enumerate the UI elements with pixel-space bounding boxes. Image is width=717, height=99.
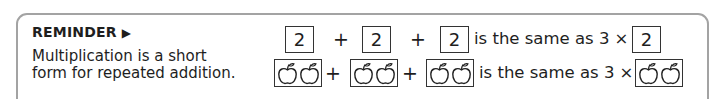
- number-box-1: 2: [285, 26, 314, 53]
- result-apple-box: [635, 59, 683, 87]
- number-box-3: 2: [440, 26, 469, 53]
- plus-sign-4: +: [402, 63, 418, 83]
- apple-icon: [353, 62, 374, 85]
- description-line-2: form for repeated addition.: [32, 65, 235, 82]
- apple-box-3: [426, 59, 474, 87]
- apple-box-2: [350, 59, 398, 87]
- apple-icon: [660, 62, 681, 85]
- result-number-box: 2: [632, 26, 661, 53]
- plus-sign-3: +: [325, 63, 341, 83]
- reminder-description: Multiplication is a short form for repea…: [32, 48, 235, 82]
- plus-sign-2: +: [410, 29, 426, 49]
- description-line-1: Multiplication is a short: [32, 48, 235, 65]
- apple-box-1: [274, 59, 322, 87]
- apple-icon: [277, 62, 298, 85]
- apple-icon: [429, 62, 450, 85]
- reminder-title-text: REMINDER: [32, 24, 117, 40]
- same-as-phrase-2: is the same as 3 ×: [479, 63, 633, 83]
- apple-icon: [451, 62, 472, 85]
- apple-icon: [375, 62, 396, 85]
- number-box-2: 2: [362, 26, 391, 53]
- apple-icon: [638, 62, 659, 85]
- same-as-phrase-1: is the same as 3 ×: [474, 29, 628, 49]
- play-arrow-icon: ▶: [122, 26, 131, 40]
- apple-icon: [299, 62, 320, 85]
- plus-sign-1: +: [333, 29, 349, 49]
- reminder-title: REMINDER ▶: [32, 24, 131, 40]
